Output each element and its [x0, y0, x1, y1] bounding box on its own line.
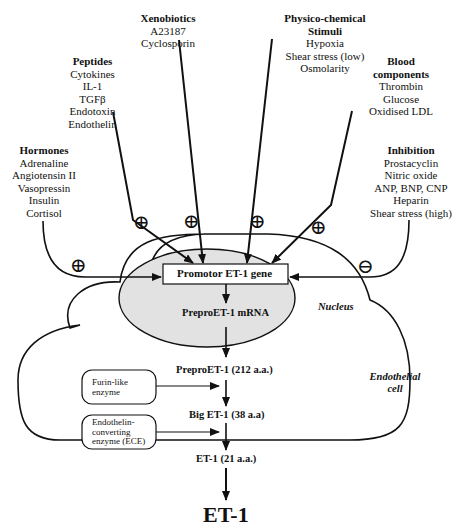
inhibition-item: Nitric oxide: [363, 169, 459, 182]
peptides-item: Endotoxin: [55, 105, 130, 118]
inhibition-title: Inhibition: [363, 144, 459, 157]
peptides-title: Peptides: [55, 55, 130, 68]
inhibition-item: Shear stress (high): [363, 207, 459, 220]
xenobiotics-group: Xenobiotics A23187 Cyclosporin: [118, 12, 218, 50]
hormones-item: Angiotensin II: [0, 169, 88, 182]
xenobiotics-item: A23187: [118, 25, 218, 38]
et1-label: ET-1 (21 a.a.): [196, 453, 256, 464]
ece-label: Endothelin- converting enzyme (ECE): [92, 418, 145, 447]
hormones-item: Vasopressin: [0, 182, 88, 195]
hormones-item: Cortisol: [0, 207, 88, 220]
promotor-label: Promotor ET-1 gene: [177, 267, 272, 279]
peptides-item: TGFβ: [55, 93, 130, 106]
nucleus-label: Nucleus: [318, 301, 354, 313]
furin-line: enzyme: [92, 388, 128, 398]
xenobiotics-item: Cyclosporin: [118, 37, 218, 50]
peptides-item: IL-1: [55, 80, 130, 93]
output-et1-label: ET-1: [203, 502, 249, 528]
blood-item: Oxidised LDL: [356, 105, 446, 118]
inhibition-item: Prostacyclin: [363, 157, 459, 170]
inhibition-item: ANP, BNP, CNP: [363, 182, 459, 195]
peptides-plus-icon: ⊕: [133, 212, 150, 232]
hormones-item: Adrenaline: [0, 157, 88, 170]
blood-item: Thrombin: [356, 80, 446, 93]
xenobiotics-plus-icon: ⊕: [183, 211, 200, 231]
hormones-item: Insulin: [0, 194, 88, 207]
peptides-group: Peptides Cytokines IL-1 TGFβ Endotoxin E…: [55, 55, 130, 130]
mrna-label: PreproET-1 mRNA: [182, 307, 269, 318]
physico-title-line1: Physico-chemical: [270, 12, 380, 25]
hormones-group: Hormones Adrenaline Angiotensin II Vasop…: [0, 144, 88, 219]
peptides-item: Endothelin: [55, 118, 130, 131]
physico-item: Hypoxia: [270, 37, 380, 50]
inhibition-minus-icon: ⊖: [357, 256, 374, 276]
furin-label: Furin-like enzyme: [92, 378, 128, 397]
hormones-plus-icon: ⊕: [70, 255, 87, 275]
blood-title-line2: components: [356, 68, 446, 81]
cell-label: Endothelial cell: [360, 371, 430, 395]
blood-title-line1: Blood: [356, 55, 446, 68]
cell-label-line2: cell: [360, 383, 430, 395]
physico-plus-icon: ⊕: [249, 211, 266, 231]
big-et1-label: Big ET-1 (38 a.a): [189, 409, 264, 420]
physico-title-line2: Stimuli: [270, 25, 380, 38]
peptides-item: Cytokines: [55, 68, 130, 81]
blood-group: Blood components Thrombin Glucose Oxidis…: [356, 55, 446, 118]
blood-plus-icon: ⊕: [310, 217, 327, 237]
blood-item: Glucose: [356, 93, 446, 106]
hormones-title: Hormones: [0, 144, 88, 157]
inhibition-group: Inhibition Prostacyclin Nitric oxide ANP…: [363, 144, 459, 219]
xenobiotics-title: Xenobiotics: [118, 12, 218, 25]
inhibition-item: Heparin: [363, 194, 459, 207]
ece-line: enzyme (ECE): [92, 437, 145, 447]
prepro-et1-label: PreproET-1 (212 a.a.): [176, 364, 273, 375]
cell-label-line1: Endothelial: [360, 371, 430, 383]
